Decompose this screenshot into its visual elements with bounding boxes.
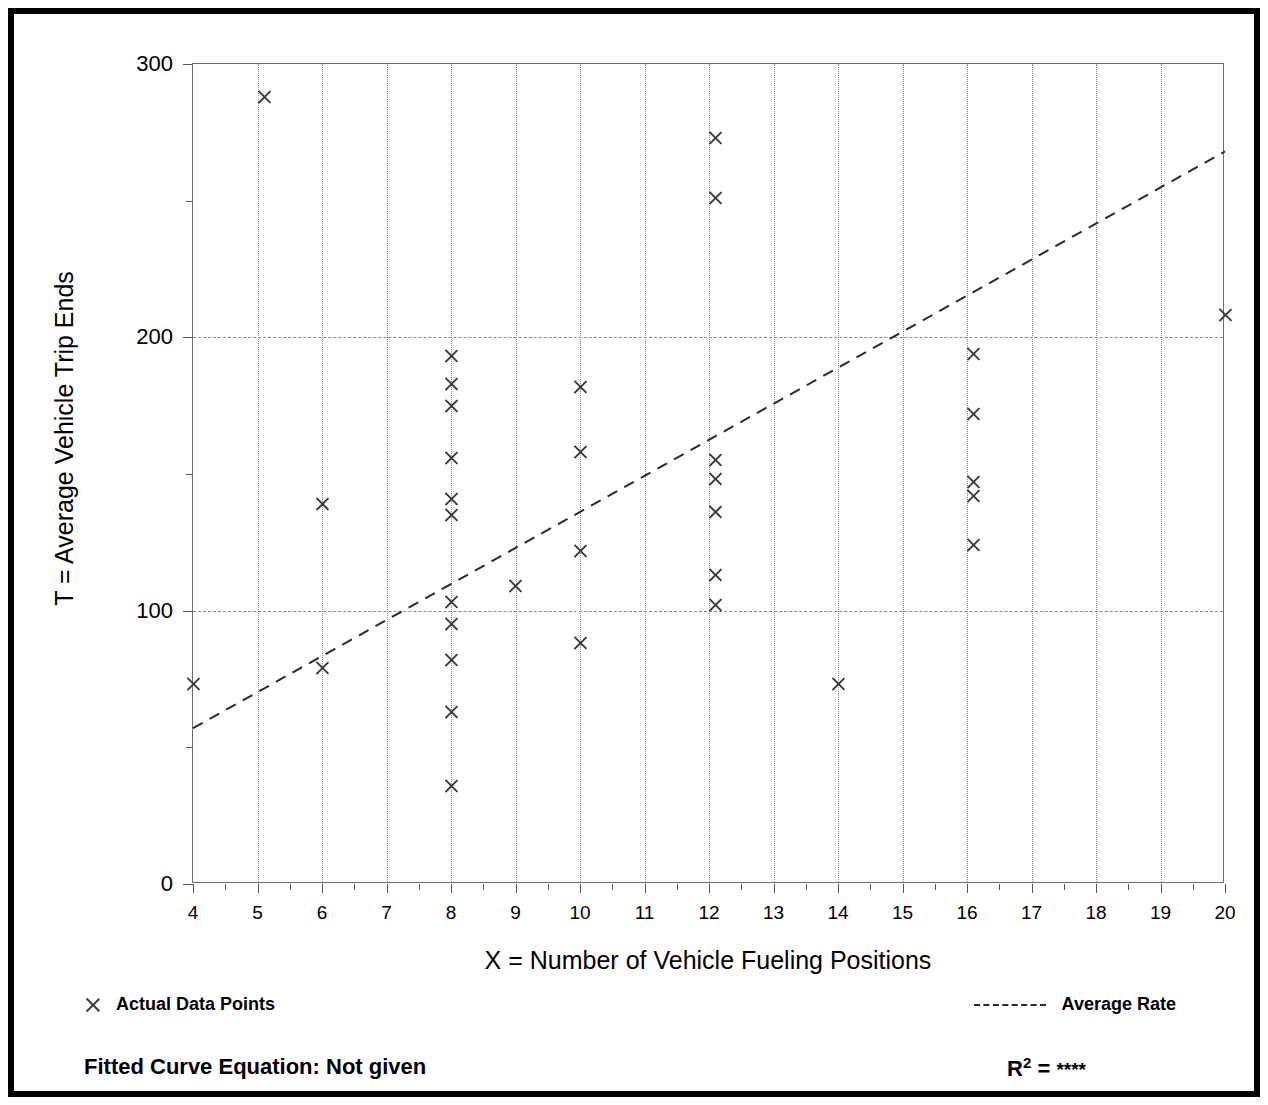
data-point [965,537,982,554]
gridline-vertical [1161,64,1162,882]
data-point [707,597,724,614]
gridline-vertical [516,64,517,882]
data-point [443,490,460,507]
x-tick [903,884,904,893]
data-point [443,594,460,611]
r-squared-equals: = [1031,1056,1056,1081]
gridline-vertical [580,64,581,882]
x-tick-label: 20 [1214,902,1235,924]
gridline-vertical [838,64,839,882]
data-point [572,542,589,559]
y-tick-minor [186,474,193,475]
y-tick-label: 300 [136,51,173,77]
data-point [443,348,460,365]
x-tick-label: 15 [892,902,913,924]
data-point [572,378,589,395]
x-tick [258,884,259,893]
legend-item-actual-data-points: Actual Data Points [84,994,275,1015]
x-tick-label: 6 [317,902,328,924]
x-tick-minor [225,884,226,890]
y-tick-minor [186,747,193,748]
x-tick-label: 5 [252,902,263,924]
x-tick-minor [354,884,355,890]
figure-frame: 4567891011121314151617181920 0100200300 … [8,8,1260,1097]
gridline-vertical [645,64,646,882]
x-tick-minor [1128,884,1129,890]
x-tick-label: 9 [510,902,521,924]
y-tick [183,611,193,612]
x-tick-minor [806,884,807,890]
data-point [443,507,460,524]
x-tick-label: 19 [1150,902,1171,924]
x-axis-title: X = Number of Vehicle Fueling Positions [192,946,1224,975]
gridline-vertical [387,64,388,882]
y-tick [183,884,193,885]
data-point [707,504,724,521]
footer: Fitted Curve Equation: Not given R2 = **… [84,1054,1204,1094]
x-tick-minor [483,884,484,890]
data-point [507,578,524,595]
x-tick-label: 16 [956,902,977,924]
x-tick [387,884,388,893]
x-tick [1161,884,1162,893]
x-tick-minor [1064,884,1065,890]
y-tick-label: 100 [136,598,173,624]
gridline-horizontal [193,337,1223,338]
data-point [443,397,460,414]
legend-item-average-rate: Average Rate [974,994,1176,1015]
data-point [255,88,272,105]
fitted-curve-equation: Fitted Curve Equation: Not given [84,1054,426,1080]
x-tick-label: 11 [635,902,655,924]
x-tick-minor [741,884,742,890]
x-tick [1032,884,1033,893]
x-marker-icon [84,996,102,1014]
x-tick-minor [548,884,549,890]
x-tick-label: 12 [698,902,719,924]
r-squared-stars: **** [1056,1059,1086,1080]
x-tick [580,884,581,893]
data-point [314,660,331,677]
x-tick-minor [1193,884,1194,890]
x-tick [967,884,968,893]
x-tick [1225,884,1226,893]
gridline-vertical [1032,64,1033,882]
data-point [443,616,460,633]
legend-label-average-rate: Average Rate [1062,994,1176,1015]
r-squared-value: R2 = **** [1007,1054,1086,1082]
gridline-vertical [774,64,775,882]
data-point [185,676,202,693]
data-point [707,129,724,146]
gridline-vertical [1096,64,1097,882]
x-tick [838,884,839,893]
x-tick-label: 7 [381,902,392,924]
data-point [572,444,589,461]
data-point [965,345,982,362]
x-tick-minor [612,884,613,890]
x-tick-minor [870,884,871,890]
x-tick-label: 8 [446,902,457,924]
plot-area: 4567891011121314151617181920 0100200300 [192,63,1224,883]
x-tick-label: 4 [188,902,199,924]
data-point [314,496,331,513]
x-tick [193,884,194,893]
x-tick-label: 14 [827,902,848,924]
data-point [965,405,982,422]
data-point [707,452,724,469]
y-axis-title: T = Average Vehicle Trip Ends [50,89,79,789]
y-tick-label: 0 [161,871,173,897]
x-tick-minor [419,884,420,890]
data-point [707,189,724,206]
data-point [965,487,982,504]
gridline-vertical [258,64,259,882]
x-tick-label: 13 [763,902,784,924]
data-point [443,375,460,392]
x-tick [451,884,452,893]
x-tick-label: 18 [1085,902,1106,924]
x-tick [322,884,323,893]
chart-area: 4567891011121314151617181920 0100200300 … [14,14,1254,1091]
dashed-line-icon [974,1004,1046,1006]
x-tick-label: 17 [1021,902,1042,924]
x-tick [774,884,775,893]
data-point [572,635,589,652]
data-point [830,676,847,693]
